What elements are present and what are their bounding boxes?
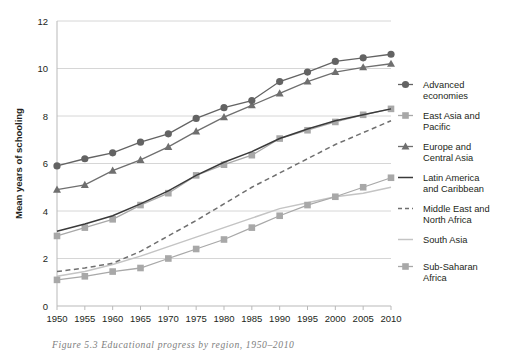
data-point xyxy=(137,139,144,146)
legend-label: Latin America xyxy=(423,173,480,183)
legend-item-middle-east-and-north-africa[interactable]: Middle East andNorth Africa xyxy=(398,204,490,225)
x-tick-label-1960: 1960 xyxy=(102,313,123,324)
data-point xyxy=(332,193,339,200)
legend-label: Central Asia xyxy=(423,153,474,163)
y-tick-label-12: 12 xyxy=(37,16,48,27)
legend-swatch-marker xyxy=(402,81,409,88)
legend-label: South Asia xyxy=(423,235,468,245)
legend-item-latin-america-and-caribbean[interactable]: Latin Americaand Caribbean xyxy=(398,173,484,194)
data-point xyxy=(193,115,200,122)
data-point xyxy=(360,184,367,191)
legend-item-europe-and-central-asia[interactable]: Europe andCentral Asia xyxy=(398,142,474,163)
x-tick-label-1980: 1980 xyxy=(213,313,234,324)
data-point xyxy=(387,60,395,67)
x-tick-label-1955: 1955 xyxy=(74,313,95,324)
x-tick-label-1985: 1985 xyxy=(241,313,262,324)
data-point xyxy=(220,104,227,111)
legend-label: East Asia and xyxy=(423,111,480,121)
y-tick-label-10: 10 xyxy=(37,63,48,74)
data-point xyxy=(54,233,61,240)
x-tick-label-2000: 2000 xyxy=(325,313,346,324)
data-point xyxy=(193,246,200,253)
y-tick-label-6: 6 xyxy=(43,158,48,169)
legend-label: Europe and xyxy=(423,142,471,152)
data-point xyxy=(54,277,61,284)
legend-label: Advanced xyxy=(423,80,464,90)
legend-swatch-marker xyxy=(402,112,409,119)
legend-label: Middle East and xyxy=(423,204,490,214)
legend-label: North Africa xyxy=(423,215,472,225)
data-point xyxy=(276,78,283,85)
data-point xyxy=(360,54,367,61)
data-point xyxy=(81,181,89,188)
data-point xyxy=(304,68,311,75)
x-tick-label-1995: 1995 xyxy=(297,313,318,324)
data-point xyxy=(276,212,283,219)
data-point xyxy=(164,143,172,150)
legend-item-south-asia[interactable]: South Asia xyxy=(398,235,468,245)
series-latin-america-and-caribbean xyxy=(57,109,391,231)
data-point xyxy=(388,174,395,181)
figure-container: 0246810121950195519601965197019751980198… xyxy=(0,0,519,353)
y-axis-title: Mean years of schooling xyxy=(13,108,24,219)
legend-label: economies xyxy=(423,91,468,101)
data-point xyxy=(249,224,256,231)
data-point xyxy=(165,255,172,262)
legend-item-sub-saharan-africa[interactable]: Sub-SaharanAfrica xyxy=(398,262,478,283)
data-point xyxy=(192,127,200,134)
data-point xyxy=(137,156,145,163)
line-chart: 0246810121950195519601965197019751980198… xyxy=(0,0,519,353)
legend-label: Africa xyxy=(423,273,448,283)
data-point xyxy=(165,130,172,137)
legend-label: Pacific xyxy=(423,122,451,132)
series-line xyxy=(57,109,391,231)
series-europe-and-central-asia xyxy=(53,60,395,193)
y-tick-label-2: 2 xyxy=(43,253,48,264)
data-point xyxy=(137,265,144,272)
data-point xyxy=(53,162,60,169)
data-point xyxy=(332,58,339,65)
data-point xyxy=(221,236,228,243)
data-point xyxy=(109,268,116,275)
data-point xyxy=(82,273,89,280)
legend-swatch-marker xyxy=(402,263,409,270)
legend-item-east-asia-and-pacific[interactable]: East Asia andPacific xyxy=(398,111,480,132)
data-point xyxy=(387,51,394,58)
data-point xyxy=(109,149,116,156)
figure-caption: Figure 5.3 Educational progress by regio… xyxy=(52,339,294,350)
data-point xyxy=(248,97,255,104)
y-tick-label-4: 4 xyxy=(43,206,48,217)
series-south-asia xyxy=(57,187,391,276)
legend-label: and Caribbean xyxy=(423,184,484,194)
series-line xyxy=(57,178,391,280)
x-tick-label-1990: 1990 xyxy=(269,313,290,324)
y-tick-label-8: 8 xyxy=(43,111,48,122)
series-line xyxy=(57,187,391,276)
y-tick-label-0: 0 xyxy=(43,301,48,312)
x-tick-label-1965: 1965 xyxy=(130,313,151,324)
data-point xyxy=(81,155,88,162)
legend-label: Sub-Saharan xyxy=(423,262,478,272)
data-point xyxy=(304,202,311,209)
series-east-asia-and-pacific xyxy=(54,106,395,240)
x-tick-label-2005: 2005 xyxy=(353,313,374,324)
x-tick-label-2010: 2010 xyxy=(380,313,401,324)
x-tick-label-1950: 1950 xyxy=(46,313,67,324)
x-tick-label-1975: 1975 xyxy=(186,313,207,324)
x-tick-label-1970: 1970 xyxy=(158,313,179,324)
series-line xyxy=(57,64,391,190)
legend-item-advanced-economies[interactable]: Advancedeconomies xyxy=(398,80,468,101)
